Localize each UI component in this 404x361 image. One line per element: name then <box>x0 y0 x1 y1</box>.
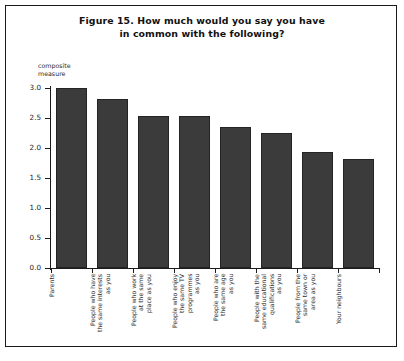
title-line-2: in common with the following? <box>0 27 404 40</box>
y-axis-title: composite measure <box>38 62 108 77</box>
y-tick-label: 0.5 <box>19 234 41 241</box>
x-tick-mark <box>256 269 257 273</box>
y-tick-mark <box>45 208 50 209</box>
x-tick-mark <box>174 269 175 273</box>
x-tick-label-text: People from the same town or area as you <box>294 274 316 356</box>
x-tick-label-text: Parents <box>48 274 55 356</box>
page-title: Figure 15. How much would you say you ha… <box>0 14 404 40</box>
x-tick-mark <box>51 269 52 273</box>
x-tick-mark <box>215 269 216 273</box>
figure-screenshot: Figure 15. How much would you say you ha… <box>0 0 404 361</box>
y-axis-title-line-2: measure <box>38 70 108 78</box>
y-axis-line <box>50 86 51 270</box>
x-tick-label-text: People with the same educational qualifi… <box>253 274 283 356</box>
y-tick-label: 1.0 <box>19 204 41 211</box>
x-tick-mark <box>338 269 339 273</box>
y-axis-title-line-1: composite <box>38 62 108 70</box>
bar <box>138 116 170 268</box>
y-tick-label: 2.5 <box>19 114 41 121</box>
x-tick-mark <box>297 269 298 273</box>
y-tick-label: 3.0 <box>19 84 41 91</box>
x-tick-label-text: People who work at the same place as you <box>130 274 152 356</box>
x-tick-label: Your neighbours <box>335 274 383 356</box>
y-tick-mark <box>45 178 50 179</box>
y-tick-mark <box>45 148 50 149</box>
bar <box>56 88 88 268</box>
title-line-1: Figure 15. How much would you say you ha… <box>0 14 404 27</box>
y-tick-mark <box>45 118 50 119</box>
bar <box>220 127 252 268</box>
y-tick-mark <box>45 88 50 89</box>
bar <box>343 159 375 268</box>
x-tick-label-text: Your neighbours <box>335 274 342 356</box>
x-tick-label-text: People who have the same interests as yo… <box>89 274 111 356</box>
x-tick-mark <box>92 269 93 273</box>
y-tick-label: 1.5 <box>19 174 41 181</box>
bar <box>261 133 293 268</box>
x-tick-mark <box>379 269 380 273</box>
bar <box>302 152 334 268</box>
bar <box>97 99 129 268</box>
x-tick-label-text: People who are the same age as you <box>212 274 234 356</box>
bar <box>179 116 211 268</box>
x-tick-mark <box>133 269 134 273</box>
y-tick-mark <box>45 238 50 239</box>
y-tick-mark <box>45 268 50 269</box>
x-tick-label-text: People who enjoy the same TV programmes … <box>171 274 201 356</box>
y-tick-label: 0.0 <box>19 264 41 271</box>
y-tick-label: 2.0 <box>19 144 41 151</box>
